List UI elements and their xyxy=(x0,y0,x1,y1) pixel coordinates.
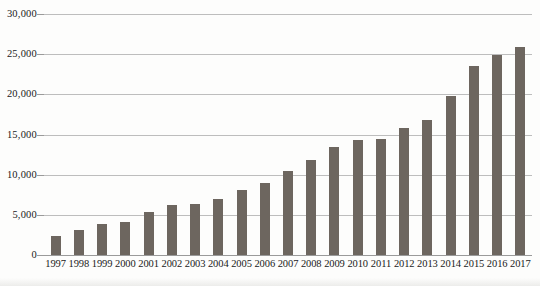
x-axis-tick-label: 2013 xyxy=(416,259,439,270)
y-axis-tick-label: 20,000 xyxy=(0,89,37,100)
x-axis-tick-label: 2016 xyxy=(486,259,509,270)
bar xyxy=(97,224,107,255)
bar xyxy=(51,236,61,255)
bar-slot xyxy=(439,14,462,255)
bar-slot xyxy=(160,14,183,255)
bar-chart-figure: 05,00010,00015,00020,00025,00030,000 199… xyxy=(0,0,540,286)
y-axis-tick-label: 25,000 xyxy=(0,49,37,60)
y-axis-tick-label: 5,000 xyxy=(0,210,37,221)
x-axis-tick-label: 2006 xyxy=(253,259,276,270)
x-axis-tick-label: 2002 xyxy=(160,259,183,270)
x-axis-tick-label: 2014 xyxy=(439,259,462,270)
bar xyxy=(213,199,223,255)
bar-slot xyxy=(369,14,392,255)
bar xyxy=(492,55,502,255)
bar-slot xyxy=(67,14,90,255)
x-axis-labels: 1997199819992000200120022003200420052006… xyxy=(44,259,532,277)
bar xyxy=(260,183,270,255)
x-axis-tick-label: 2009 xyxy=(323,259,346,270)
y-tick-25000 xyxy=(37,54,44,55)
bar-slot xyxy=(509,14,532,255)
scan-artifact xyxy=(0,278,540,286)
bar-slot xyxy=(90,14,113,255)
y-tick-30000 xyxy=(37,14,44,15)
bar-slot xyxy=(276,14,299,255)
x-axis-tick-label: 2004 xyxy=(207,259,230,270)
bar-slot xyxy=(44,14,67,255)
x-axis-tick-label: 2000 xyxy=(114,259,137,270)
x-axis-tick-label: 2010 xyxy=(346,259,369,270)
bar xyxy=(167,205,177,255)
x-axis-tick-label: 2011 xyxy=(369,259,392,270)
bar xyxy=(190,204,200,255)
y-axis-tick-label: 0 xyxy=(0,250,37,261)
x-axis-tick-label: 2005 xyxy=(230,259,253,270)
bar xyxy=(446,96,456,255)
x-axis-tick-label: 1999 xyxy=(90,259,113,270)
bar-slot xyxy=(323,14,346,255)
bar xyxy=(353,140,363,255)
bar xyxy=(283,171,293,255)
bar-slot xyxy=(137,14,160,255)
bar xyxy=(376,139,386,255)
bar xyxy=(515,47,525,255)
y-tick-20000 xyxy=(37,94,44,95)
gridline-0 xyxy=(44,255,532,256)
y-axis-tick-label: 15,000 xyxy=(0,130,37,141)
bar xyxy=(422,120,432,255)
y-axis-tick-label: 30,000 xyxy=(0,9,37,20)
bar-slot xyxy=(393,14,416,255)
bar xyxy=(306,160,316,255)
plot-area xyxy=(44,14,532,255)
bar xyxy=(329,147,339,255)
bar xyxy=(469,66,479,255)
bar-slot xyxy=(207,14,230,255)
y-tick-10000 xyxy=(37,175,44,176)
bar-slot xyxy=(486,14,509,255)
x-axis-tick-label: 1998 xyxy=(67,259,90,270)
bar xyxy=(237,190,247,255)
x-axis-tick-label: 2001 xyxy=(137,259,160,270)
x-axis-tick-label: 2015 xyxy=(462,259,485,270)
y-tick-5000 xyxy=(37,215,44,216)
bar-slot xyxy=(462,14,485,255)
bar-slot xyxy=(346,14,369,255)
bar-slot xyxy=(416,14,439,255)
x-axis-tick-label: 2017 xyxy=(509,259,532,270)
bar xyxy=(144,212,154,255)
bar-slot xyxy=(230,14,253,255)
bar xyxy=(399,128,409,255)
bar-slot xyxy=(253,14,276,255)
bar xyxy=(74,230,84,255)
y-axis-tick-label: 10,000 xyxy=(0,170,37,181)
bar xyxy=(120,222,130,255)
x-axis-tick-label: 2012 xyxy=(393,259,416,270)
bar-slot xyxy=(183,14,206,255)
x-axis-tick-label: 2007 xyxy=(276,259,299,270)
bars-series xyxy=(44,14,532,255)
bar-slot xyxy=(114,14,137,255)
y-axis-labels: 05,00010,00015,00020,00025,00030,000 xyxy=(0,14,37,255)
x-axis-tick-label: 1997 xyxy=(44,259,67,270)
y-tick-0 xyxy=(37,255,44,256)
x-axis-tick-label: 2003 xyxy=(183,259,206,270)
y-tick-15000 xyxy=(37,135,44,136)
x-axis-tick-label: 2008 xyxy=(300,259,323,270)
bar-slot xyxy=(300,14,323,255)
